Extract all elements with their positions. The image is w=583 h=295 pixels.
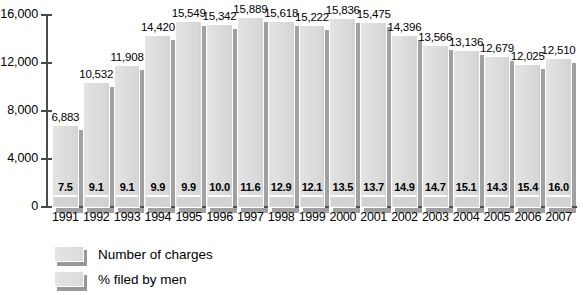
bar-percent-label: 12.1 <box>302 182 323 193</box>
bar-group: 15,22212.1 <box>299 25 326 208</box>
bar-percent-label: 7.5 <box>58 182 73 193</box>
bar-value-label: 15,222 <box>295 11 329 23</box>
bar-group: 15,47513.7 <box>360 22 387 208</box>
bar-group: 14,39614.9 <box>391 35 418 208</box>
legend-item-number-of-charges: Number of charges <box>54 246 354 267</box>
bar-group: 15,5499.9 <box>175 21 202 208</box>
bar-percent-label: 12.9 <box>271 182 292 193</box>
bar-percent-label: 13.5 <box>333 182 354 193</box>
bar-group: 13,56614.7 <box>422 45 449 208</box>
bar-percent-filed-by-men <box>331 195 354 206</box>
bar-number-of-charges <box>329 18 356 208</box>
legend-swatch-fill <box>54 246 84 262</box>
x-axis-tick-label: 1992 <box>81 210 112 224</box>
bar-percent-filed-by-men <box>85 195 108 206</box>
plot-area: 04,0008,00012,00016,000 6,8837.510,5329.… <box>0 0 583 232</box>
bar-percent-filed-by-men <box>362 195 385 206</box>
bar-percent-filed-by-men <box>424 195 447 206</box>
bar-value-label: 14,396 <box>387 21 421 33</box>
x-axis-tick-label: 1997 <box>235 210 266 224</box>
bar-value-label: 10,532 <box>79 68 113 80</box>
bar-value-label: 14,420 <box>141 21 175 33</box>
x-axis-tick-label: 1996 <box>204 210 235 224</box>
bar-group: 6,8837.5 <box>52 125 79 208</box>
bar-percent-label: 11.6 <box>240 182 260 193</box>
bar-percent-label: 14.9 <box>394 182 415 193</box>
bar-value-label: 15,618 <box>264 7 298 19</box>
legend-swatch-fill <box>54 271 84 287</box>
bar-group: 12,02515.4 <box>514 64 541 208</box>
bar-value-label: 12,025 <box>511 50 545 62</box>
bar-group: 11,9089.1 <box>114 65 141 208</box>
x-axis-tick-label: 1993 <box>112 210 143 224</box>
bar-group: 12,67914.3 <box>484 56 511 208</box>
bar-group: 14,4209.9 <box>144 35 171 208</box>
bar-value-label: 13,566 <box>418 31 452 43</box>
bar-number-of-charges <box>268 21 295 208</box>
bar-number-of-charges <box>52 125 79 208</box>
x-axis-tick-label: 1998 <box>266 210 297 224</box>
bar-value-label: 12,679 <box>480 42 514 54</box>
bar-percent-filed-by-men <box>393 195 416 206</box>
bar-chart: 04,0008,00012,00016,000 6,8837.510,5329.… <box>0 0 583 295</box>
bar-percent-filed-by-men <box>208 195 231 206</box>
x-axis-tick-label: 1999 <box>297 210 328 224</box>
bar-value-label: 15,836 <box>326 4 360 16</box>
bar-value-label: 15,889 <box>233 3 267 15</box>
bar-percent-label: 9.9 <box>181 182 196 193</box>
bar-percent-label: 9.9 <box>151 182 166 193</box>
bar-group: 15,61812.9 <box>268 21 295 208</box>
bar-value-label: 13,136 <box>449 36 483 48</box>
bar-percent-label: 9.1 <box>89 182 104 193</box>
x-axis-tick-label: 2001 <box>358 210 389 224</box>
bar-percent-label: 16.0 <box>548 182 569 193</box>
legend-swatch-number-of-charges <box>54 246 84 262</box>
bar-percent-filed-by-men <box>516 195 539 206</box>
bar-percent-filed-by-men <box>301 195 324 206</box>
bar-value-label: 11,908 <box>110 51 143 63</box>
bar-group: 10,5329.1 <box>83 82 110 208</box>
bar-percent-filed-by-men <box>116 195 139 206</box>
bar-group: 13,13615.1 <box>453 50 480 208</box>
bar-group: 15,34210.0 <box>206 24 233 208</box>
x-axis-tick-label: 2005 <box>482 210 513 224</box>
x-axis-tick-label: 2006 <box>512 210 543 224</box>
bar-percent-filed-by-men <box>239 195 262 206</box>
bar-percent-label: 9.1 <box>120 182 135 193</box>
x-axis-tick-label: 1994 <box>142 210 173 224</box>
chart-legend: Number of charges % filed by men <box>54 246 354 295</box>
bar-percent-filed-by-men <box>270 195 293 206</box>
bar-percent-filed-by-men <box>146 195 169 206</box>
bar-value-label: 12,510 <box>542 44 576 56</box>
bar-percent-label: 15.4 <box>517 182 538 193</box>
bar-percent-filed-by-men <box>177 195 200 206</box>
bar-group: 12,51016.0 <box>545 58 572 208</box>
legend-label-percent-filed-by-men: % filed by men <box>98 271 187 288</box>
x-axis-tick-label: 2000 <box>327 210 358 224</box>
bar-percent-filed-by-men <box>486 195 509 206</box>
bar-value-label: 15,475 <box>357 8 391 20</box>
bar-number-of-charges <box>175 21 202 208</box>
x-axis-tick-label: 1995 <box>173 210 204 224</box>
bar-number-of-charges <box>237 17 264 208</box>
legend-swatch-percent-filed-by-men <box>54 271 84 287</box>
bar-percent-label: 15.1 <box>456 182 477 193</box>
bar-percent-filed-by-men <box>547 195 570 206</box>
x-axis-tick-label: 2007 <box>543 210 574 224</box>
bar-percent-label: 10.0 <box>209 182 230 193</box>
bar-percent-filed-by-men <box>54 195 77 206</box>
legend-item-percent-filed-by-men: % filed by men <box>54 271 354 292</box>
bars-layer: 6,8837.510,5329.111,9089.114,4209.915,54… <box>0 0 583 232</box>
x-axis-tick-label: 2002 <box>389 210 420 224</box>
x-axis-tick-label: 1991 <box>50 210 81 224</box>
x-axis-tick-label: 2004 <box>451 210 482 224</box>
bar-group: 15,88911.6 <box>237 17 264 208</box>
bar-value-label: 6,883 <box>52 111 80 123</box>
legend-label-number-of-charges: Number of charges <box>98 246 213 263</box>
bar-value-label: 15,549 <box>172 7 206 19</box>
bar-percent-filed-by-men <box>455 195 478 206</box>
x-axis-tick-label: 2003 <box>420 210 451 224</box>
bar-value-label: 15,342 <box>203 10 237 22</box>
bar-percent-label: 14.7 <box>425 182 446 193</box>
bar-group: 15,83613.5 <box>329 18 356 208</box>
